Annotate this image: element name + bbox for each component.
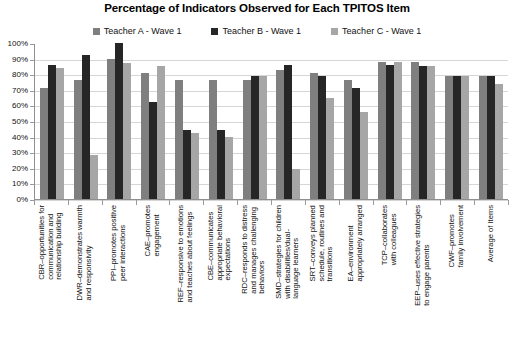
bar[interactable] (225, 137, 233, 199)
x-axis-category-label: TCP–collaborateswith colleagues (381, 205, 398, 265)
x-axis-category-label: Average of Items (487, 205, 496, 262)
bar[interactable] (394, 62, 402, 199)
bar[interactable] (310, 73, 318, 199)
legend-swatch-icon (331, 28, 338, 35)
bar[interactable] (259, 76, 267, 199)
bar[interactable] (326, 98, 334, 199)
bar-group (474, 44, 508, 199)
legend-swatch-icon (93, 28, 100, 35)
bar[interactable] (411, 62, 419, 199)
x-axis-category-label-line: to engage parents (423, 205, 432, 306)
bar[interactable] (284, 65, 292, 199)
x-axis-category-label: CAE–promotesengagement (144, 205, 161, 257)
y-axis-tick-label: 90% (12, 56, 28, 64)
bar[interactable] (191, 133, 199, 199)
legend-label: Teacher C - Wave 1 (342, 26, 421, 36)
x-axis-category-cell: EEP–uses effective strategiesto engage p… (406, 205, 440, 337)
legend-entry[interactable]: Teacher A - Wave 1 (93, 26, 182, 36)
x-axis-category-label-line: engagement (153, 205, 162, 257)
legend-entry[interactable]: Teacher B - Wave 1 (211, 26, 301, 36)
bar[interactable] (495, 84, 503, 199)
bar[interactable] (479, 76, 487, 199)
bar-group (305, 44, 339, 199)
x-axis-category-label-line: TCP–collaborates (381, 205, 390, 265)
bar[interactable] (360, 112, 368, 199)
x-axis-category-label-line: EA–environment (347, 205, 356, 281)
x-axis-category-cell: CBE–communicatesappropriate behavioralex… (203, 205, 237, 337)
x-axis-category-cell: CWF–promotesfamily involvement (440, 205, 474, 337)
bar[interactable] (141, 73, 149, 199)
bar[interactable] (445, 76, 453, 199)
chart-legend: Teacher A - Wave 1Teacher B - Wave 1Teac… (0, 26, 514, 36)
plot-area (34, 44, 508, 200)
x-axis-category-label: RDC–responds to distressand manages chal… (241, 205, 267, 294)
bar[interactable] (427, 66, 435, 199)
x-axis-category-label-line: expectations (225, 205, 234, 281)
plot-wrapper: 100%90%80%70%60%50%40%30%20%10%0% CBR–op… (0, 44, 514, 337)
bar[interactable] (217, 130, 225, 199)
bar[interactable] (82, 55, 90, 199)
y-axis-tick-label: 100% (8, 40, 28, 48)
x-axis-category-cell: REF–responsive to emotionsand teaches ab… (169, 205, 203, 337)
bar[interactable] (352, 88, 360, 199)
bar[interactable] (461, 76, 469, 199)
bar[interactable] (123, 63, 131, 199)
x-axis-category-label-line: PPI–promotes positive (110, 205, 119, 281)
bar[interactable] (40, 88, 48, 199)
y-axis-tick-label: 20% (12, 165, 28, 173)
bar[interactable] (344, 80, 352, 199)
bar[interactable] (183, 130, 191, 199)
x-axis-category-label: CWF–promotesfamily involvement (449, 205, 466, 267)
x-axis-category-label-line: peer interactions (119, 205, 128, 281)
x-axis-category-label: EA–environmentappropriately arranged (347, 205, 364, 281)
x-axis-category-cell: SMD–strategies for childrenwith disabili… (271, 205, 305, 337)
x-axis-category-labels: CBR–opportunities forcommunication andre… (34, 205, 508, 337)
bar-chart: Percentage of Indicators Observed for Ea… (0, 0, 514, 337)
bar[interactable] (251, 76, 259, 199)
x-axis-category-label-line: language learners (292, 205, 301, 299)
bar[interactable] (74, 80, 82, 199)
bar[interactable] (243, 80, 251, 199)
bar[interactable] (48, 65, 56, 199)
bar[interactable] (107, 59, 115, 199)
y-axis-tick-label: 30% (12, 149, 28, 157)
bar[interactable] (276, 70, 284, 199)
x-axis-category-label: REF–responsive to emotionsand teaches ab… (178, 205, 195, 303)
x-axis-category-label-line: relationship building (55, 205, 64, 280)
x-axis-category-label: EEP–uses effective strategiesto engage p… (415, 205, 432, 306)
x-axis-category-label-line: and responsivity (85, 205, 94, 300)
x-axis-category-label-line: with colleagues (390, 205, 399, 265)
y-axis-tick-label: 10% (12, 180, 28, 188)
bar[interactable] (453, 76, 461, 199)
x-axis-category-label: CBE–communicatesappropriate behavioralex… (207, 205, 233, 281)
x-axis-category-cell: DWR–demonstrates warmthand responsivity (68, 205, 102, 337)
y-axis-tick-label: 50% (12, 118, 28, 126)
x-axis-category-label-line: behaviors (258, 205, 267, 294)
bar[interactable] (318, 76, 326, 199)
y-axis-tick-label: 70% (12, 87, 28, 95)
bar[interactable] (378, 62, 386, 199)
bar[interactable] (292, 169, 300, 199)
bar[interactable] (419, 66, 427, 199)
y-axis: 100%90%80%70%60%50%40%30%20%10%0% (0, 44, 34, 200)
bar[interactable] (175, 80, 183, 199)
x-axis-category-cell: PPI–promotes positivepeer interactions (102, 205, 136, 337)
bar[interactable] (209, 80, 217, 199)
bar[interactable] (157, 66, 165, 199)
x-axis-category-cell: SRT–conveys plannedschedule, routines an… (305, 205, 339, 337)
x-axis-category-label-line: transitions (326, 205, 335, 281)
x-axis-category-cell: RDC–responds to distressand manages chal… (237, 205, 271, 337)
bar-group (136, 44, 170, 199)
x-axis-category-label-line: CAE–promotes (144, 205, 153, 257)
x-axis-category-cell: Average of Items (474, 205, 508, 337)
bar[interactable] (90, 155, 98, 199)
bar[interactable] (487, 76, 495, 199)
bar[interactable] (115, 43, 123, 199)
legend-swatch-icon (211, 28, 218, 35)
bar[interactable] (149, 102, 157, 199)
legend-entry[interactable]: Teacher C - Wave 1 (331, 26, 421, 36)
bar-group (271, 44, 305, 199)
bar[interactable] (56, 68, 64, 199)
bar-group (407, 44, 441, 199)
bar[interactable] (386, 65, 394, 199)
